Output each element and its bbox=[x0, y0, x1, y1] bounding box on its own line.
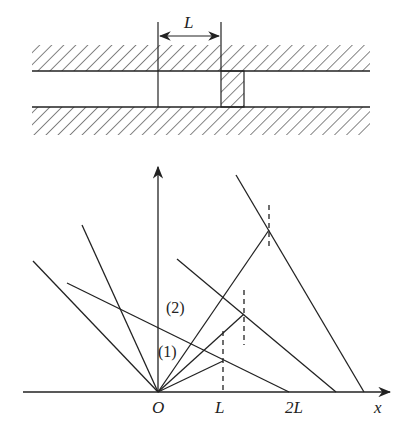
piston bbox=[221, 71, 244, 107]
region-label-2: (2) bbox=[166, 299, 185, 317]
origin-label: O bbox=[152, 398, 164, 417]
region-label-1: (1) bbox=[158, 343, 177, 361]
tick-label-2L: 2L bbox=[285, 398, 303, 417]
reflected-line-3 bbox=[236, 175, 364, 392]
ray-left-1 bbox=[33, 261, 158, 392]
length-label: L bbox=[183, 13, 193, 32]
x-axis-label: x bbox=[373, 398, 382, 417]
tick-label-L: L bbox=[214, 398, 224, 417]
ray-right-1 bbox=[158, 361, 223, 392]
upper-wall bbox=[32, 45, 370, 71]
tube-figure: L bbox=[32, 13, 370, 135]
lower-wall bbox=[32, 107, 370, 135]
xt-diagram bbox=[23, 167, 390, 392]
diagram-canvas: L O L 2L x (1) (2) bbox=[0, 0, 398, 430]
